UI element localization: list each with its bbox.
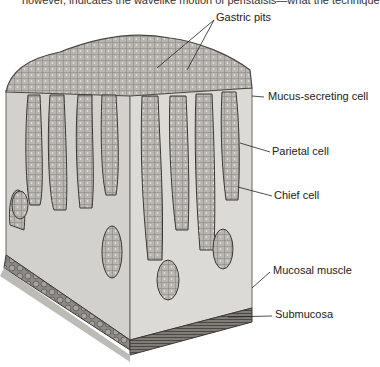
label-gastric-pits: Gastric pits bbox=[216, 11, 271, 23]
label-chief-cell: Chief cell bbox=[274, 189, 319, 201]
label-parietal-cell: Parietal cell bbox=[272, 145, 329, 157]
label-mucus-secreting-cell: Mucus-secreting cell bbox=[268, 90, 368, 102]
label-submucosa: Submucosa bbox=[275, 308, 333, 320]
label-mucosal-muscle: Mucosal muscle bbox=[273, 264, 352, 276]
